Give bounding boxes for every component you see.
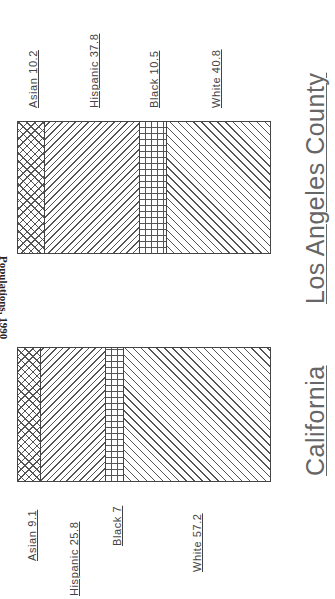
ca-label-white: White 57.2 — [191, 513, 203, 572]
ca-stacked-bar — [17, 347, 271, 482]
ca-segment-asian — [18, 348, 41, 481]
region-label-california: California — [301, 365, 330, 476]
ca-label-asian: Asian 9.1 — [26, 510, 38, 561]
ca-label-hispanic: Hispanic 25.8 — [68, 522, 80, 596]
la-label-black: Black 10.5 — [148, 51, 160, 108]
region-label-los-angeles-county: Los Angeles County — [301, 73, 330, 304]
la-segment-black — [140, 122, 167, 253]
chart-title: Populations, 1990 — [0, 256, 10, 339]
la-label-white: White 40.8 — [210, 49, 222, 108]
la-segment-hispanic — [45, 122, 140, 253]
la-label-hispanic: Hispanic 37.8 — [88, 34, 100, 108]
la-stacked-bar — [17, 121, 271, 254]
ca-segment-black — [106, 348, 124, 481]
la-label-asian: Asian 10.2 — [27, 50, 39, 108]
ca-segment-white — [124, 348, 270, 481]
ca-label-black: Black 7 — [111, 506, 123, 546]
ca-segment-hispanic — [41, 348, 106, 481]
la-segment-white — [167, 122, 270, 253]
la-segment-asian — [18, 122, 45, 253]
